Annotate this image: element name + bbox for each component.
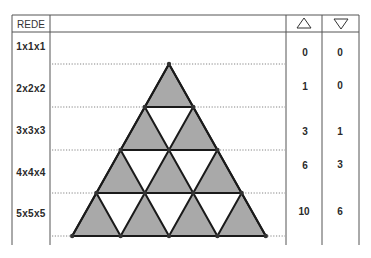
row-label-5: 5x5x5 xyxy=(16,208,45,219)
up-count-3: 3 xyxy=(302,126,308,137)
up-count-4: 6 xyxy=(302,160,308,171)
triangle-grid-figure: REDE 1x1x1 2x2x2 3x3x3 4x4x4 5x5x5 0 1 3… xyxy=(0,0,371,258)
row-label-3: 3x3x3 xyxy=(16,125,45,136)
down-count-3: 1 xyxy=(337,126,343,137)
triangle-up-icon xyxy=(297,18,311,28)
row-label-2: 2x2x2 xyxy=(16,83,45,94)
down-count-4: 3 xyxy=(337,159,343,170)
row-label-4: 4x4x4 xyxy=(16,167,45,178)
triangle-down-icon xyxy=(334,19,348,29)
row-label-1: 1x1x1 xyxy=(16,41,45,52)
down-count-1: 0 xyxy=(337,47,343,58)
up-count-1: 0 xyxy=(302,47,308,58)
header-rede: REDE xyxy=(17,19,45,30)
down-count-5: 6 xyxy=(337,206,343,217)
table-and-diagram-svg xyxy=(0,0,371,258)
up-count-5: 10 xyxy=(298,206,309,217)
down-count-2: 0 xyxy=(337,80,343,91)
up-count-2: 1 xyxy=(302,81,308,92)
